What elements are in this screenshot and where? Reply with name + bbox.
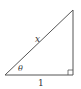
angle-label: θ [18,64,23,73]
right-triangle-diagram: x θ 1 [0,0,81,89]
hypotenuse-label: x [35,34,40,44]
base-label: 1 [38,78,44,88]
right-angle-marker [68,70,73,75]
